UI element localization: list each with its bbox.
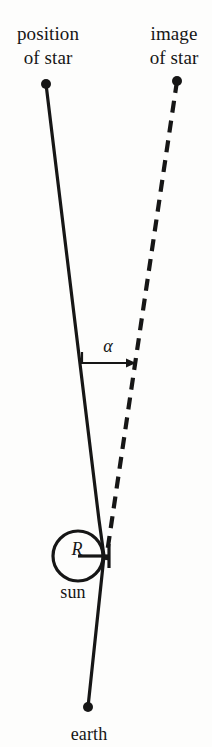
label-position-of-star-line2: of star xyxy=(17,46,79,70)
label-image-of-star-line1: image xyxy=(150,22,199,46)
dashed-apparent-ray-path xyxy=(106,81,177,560)
label-sun-radius: R xyxy=(71,537,82,561)
star-position-dot xyxy=(41,79,51,89)
label-image-of-star: image of star xyxy=(150,22,199,70)
label-position-of-star-line1: position xyxy=(17,22,79,46)
label-alpha-angle: α xyxy=(103,334,113,358)
diagram-vectors xyxy=(0,0,212,747)
diagram-canvas: position of star image of star sun earth… xyxy=(0,0,212,747)
label-sun: sun xyxy=(60,580,85,604)
image-of-star-dot xyxy=(172,76,182,86)
label-image-of-star-line2: of star xyxy=(150,46,199,70)
label-position-of-star: position of star xyxy=(17,22,79,70)
solid-light-ray-path xyxy=(46,84,104,707)
label-earth: earth xyxy=(71,722,107,746)
earth-dot xyxy=(83,702,93,712)
